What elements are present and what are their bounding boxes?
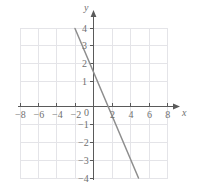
x-tick-label-4: 4 [128,110,133,120]
x-tick-label-8: 8 [165,110,170,120]
origin-label: 0 [84,108,89,118]
y-tick-label-4: 4 [82,24,87,34]
y-axis [91,10,97,180]
y-axis-label: y [84,3,88,13]
x-tick-label-2: 2 [110,110,115,120]
x-tick-label--8: −8 [15,110,26,120]
y-tick-label-2: 2 [82,59,87,69]
y-tick-label--3: −3 [78,156,89,166]
y-tick-label-3: 3 [82,41,87,51]
y-tick-label-1: 1 [82,77,87,87]
y-tick-label--1: −1 [78,120,89,130]
y-tick-label--2: −2 [78,138,89,148]
coordinate-plane-figure: −8 −6 −4 −2 2 4 6 8 4 3 2 1 −1 −2 −3 −4 … [0,0,199,187]
x-axis-label: x [182,108,186,118]
x-tick-label-6: 6 [147,110,152,120]
y-tick-label--4: −4 [78,174,89,184]
x-tick-label--6: −6 [34,110,45,120]
x-tick-label--4: −4 [52,110,63,120]
graph-canvas [0,0,199,187]
